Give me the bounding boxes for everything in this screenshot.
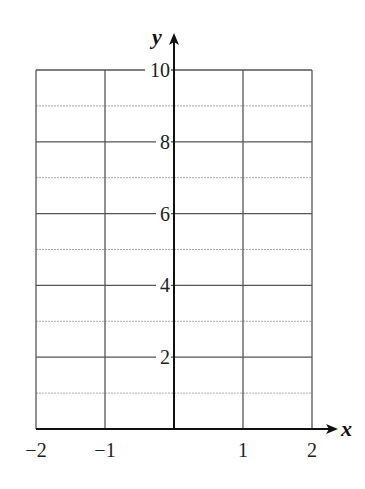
x-tick-label: 2 bbox=[307, 439, 317, 461]
x-axis-label: x bbox=[340, 416, 352, 441]
y-tick-label: 8 bbox=[160, 131, 170, 153]
coordinate-grid-chart: x y 246810−2−112 bbox=[0, 0, 365, 489]
y-tick-label: 2 bbox=[160, 346, 170, 368]
y-tick-label: 6 bbox=[160, 203, 170, 225]
y-tick-label: 10 bbox=[150, 59, 170, 81]
x-tick-label: 1 bbox=[238, 439, 248, 461]
y-tick-label: 4 bbox=[160, 274, 170, 296]
tick-labels: 246810−2−112 bbox=[25, 59, 317, 461]
x-tick-label: −1 bbox=[94, 439, 115, 461]
axes: x y bbox=[36, 24, 352, 441]
x-tick-label: −2 bbox=[25, 439, 46, 461]
y-axis-label: y bbox=[149, 24, 162, 49]
